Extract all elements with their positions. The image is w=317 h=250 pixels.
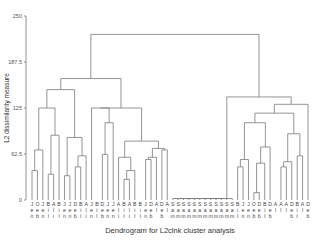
leaf-label: n	[31, 213, 34, 219]
dendrogram-link	[125, 141, 159, 157]
dendrogram-link	[39, 108, 55, 150]
dendrogram-link	[119, 157, 131, 200]
leaf-label: l	[167, 207, 168, 213]
chart-title: Dendrogram for L2clnk cluster analysis	[105, 226, 235, 235]
leaf-label: i	[118, 213, 119, 219]
leaf-label: l	[280, 207, 281, 213]
leaf-label: l	[264, 213, 265, 219]
dendrogram-chart: 062.5125187.5250 JenOebJenBilAliBilJenJe…	[0, 0, 317, 250]
dendrogram-link	[47, 90, 75, 138]
y-axis-title: L2 dissimilarity measure	[3, 73, 11, 143]
leaf-label: l	[58, 213, 59, 219]
leaf-label: b	[307, 213, 310, 219]
leaf-label: n	[41, 213, 44, 219]
leaf-label: m	[171, 213, 175, 219]
leaf-label: n	[68, 213, 71, 219]
leaf-label: m	[203, 213, 207, 219]
leaf-label: b	[160, 213, 163, 219]
leaf-label: l	[286, 207, 287, 213]
y-tick-label: 187.5	[8, 59, 22, 65]
dendrogram-link	[32, 171, 37, 200]
dendrogram-link	[102, 154, 107, 200]
leaf-label: l	[237, 213, 238, 219]
leaf-label: m	[225, 213, 229, 219]
leaf-label: b	[290, 213, 293, 219]
leaf-label: l	[302, 207, 303, 213]
leaf-label: l	[96, 213, 97, 219]
leaf-label: m	[192, 213, 196, 219]
leaf-label: i	[129, 213, 130, 219]
dendrogram-link	[281, 167, 286, 200]
leaf-label: i	[53, 213, 54, 219]
dendrogram-link	[240, 160, 248, 200]
dendrogram-link	[244, 123, 265, 160]
dendrogram-link	[288, 134, 300, 162]
dendrogram-link	[297, 156, 302, 200]
leaf-label: l	[156, 207, 157, 213]
leaf-label: m	[187, 213, 191, 219]
dendrogram-link	[35, 150, 43, 200]
dendrogram-link	[127, 171, 135, 200]
leaf-label: b	[150, 213, 153, 219]
dendrogram-link	[51, 135, 59, 200]
leaf-label: l	[275, 207, 276, 213]
dendrogram-link	[284, 162, 292, 200]
leaf-label: n	[247, 213, 250, 219]
dendrogram-link	[105, 123, 113, 200]
y-tick-label: 250	[13, 13, 22, 19]
leaf-label: n	[63, 213, 66, 219]
y-tick-label: 0	[19, 197, 22, 203]
leaf-label: m	[208, 213, 212, 219]
dendrogram-link	[255, 113, 294, 134]
dendrogram-link	[48, 174, 53, 200]
dendrogram-link	[64, 176, 69, 200]
leaf-label: l	[297, 213, 298, 219]
y-tick-label: 125	[13, 105, 22, 111]
dendrogram-link	[61, 79, 121, 108]
leaf-labels: JenOebJenBilAliBilJenJenDebBilAliJenBilD…	[31, 201, 311, 219]
dendrogram-link	[67, 137, 82, 175]
dendrogram-links	[32, 34, 308, 200]
leaf-label: n	[90, 213, 93, 219]
dendrogram-link	[78, 156, 86, 200]
leaf-label: n	[242, 213, 245, 219]
leaf-label: m	[198, 213, 202, 219]
leaf-label: l	[48, 213, 49, 219]
dendrogram-link	[148, 157, 156, 200]
dendrogram-link	[254, 193, 259, 200]
leaf-label: n	[106, 213, 109, 219]
leaf-label: m	[176, 213, 180, 219]
dendrogram-link	[227, 97, 291, 199]
dendrogram-link	[261, 147, 270, 200]
leaf-label: b	[74, 213, 77, 219]
leaf-label: l	[123, 213, 124, 219]
leaf-label: b	[36, 213, 39, 219]
leaf-label: i	[86, 213, 87, 219]
leaf-label: l	[80, 213, 81, 219]
y-axis: 062.5125187.5250	[8, 13, 26, 203]
leaf-label: m	[230, 213, 234, 219]
dendrogram-link	[100, 108, 141, 141]
dendrogram-link	[91, 34, 259, 97]
leaf-label: m	[214, 213, 218, 219]
leaf-label: l	[140, 213, 141, 219]
leaf-label: b	[258, 213, 261, 219]
dendrogram-link	[162, 150, 167, 200]
leaf-label: n	[112, 213, 115, 219]
leaf-label: b	[101, 213, 104, 219]
dendrogram-link	[75, 167, 80, 200]
dendrogram-link	[124, 179, 129, 200]
leaf-label: n	[144, 213, 147, 219]
leaf-label: l	[134, 213, 135, 219]
leaf-label: b	[252, 213, 255, 219]
y-tick-label: 62.5	[11, 151, 22, 157]
dendrogram-link	[257, 163, 265, 200]
leaf-label: m	[181, 213, 185, 219]
leaf-label: m	[219, 213, 223, 219]
dendrogram-link	[238, 167, 243, 200]
leaf-label: b	[269, 213, 272, 219]
dendrogram-link	[146, 160, 151, 200]
